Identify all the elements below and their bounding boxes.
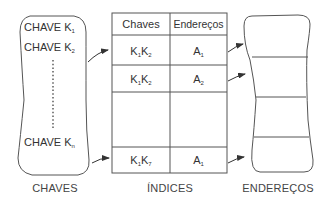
arrow-row1-to-seg1: [228, 44, 243, 52]
caption-keys: CHAVES: [10, 183, 100, 194]
key-item-1-text: CHAVE K: [24, 21, 71, 33]
key-item-n-text: CHAVE K: [24, 136, 71, 148]
index-table-grid: [112, 13, 227, 173]
arrow-row2-to-seg2: [228, 74, 245, 81]
table-row-1-key: K1K2: [112, 46, 170, 58]
table-row-4-addr: A1: [170, 155, 227, 167]
address-segment-lines: [252, 57, 309, 137]
table-row-4-key: K1K7: [112, 155, 170, 167]
key-item-1-sub: 1: [71, 28, 74, 34]
arrow-k2-to-row1: [88, 50, 108, 62]
key-item-2-sub: 2: [71, 48, 74, 54]
key-item-2-text: CHAVE K: [24, 41, 71, 53]
key-item-1: CHAVE K1: [24, 22, 75, 34]
addresses-box: [244, 15, 313, 172]
keys-box: [18, 16, 89, 175]
key-item-2: CHAVE K2: [24, 42, 75, 54]
table-header-keys: Chaves: [112, 19, 170, 30]
key-item-n: CHAVE Kn: [24, 137, 75, 149]
arrow-kn-to-row4: [92, 158, 109, 163]
caption-indices: ÍNDICES: [125, 183, 215, 194]
table-header-addresses: Endereços: [170, 19, 227, 30]
table-row-2-key: K1K2: [112, 74, 170, 86]
table-row-1-addr: A1: [170, 46, 227, 58]
table-row-2-addr: A2: [170, 74, 227, 86]
key-item-n-sub: n: [71, 143, 74, 149]
arrow-row4-to-seg4: [228, 157, 244, 163]
caption-addresses: ENDEREÇOS: [233, 183, 323, 194]
